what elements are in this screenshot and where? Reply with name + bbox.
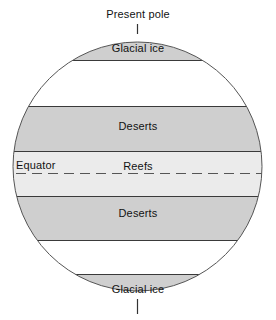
present-pole-label: Present pole — [0, 8, 276, 21]
deserts-south-label: Deserts — [0, 207, 276, 220]
deserts-north-label: Deserts — [0, 120, 276, 133]
glacial-ice-north-label: Glacial ice — [0, 42, 276, 55]
climate-belt-diagram: Present pole Glacial ice Deserts Reefs E… — [0, 0, 276, 320]
glacial-ice-south-label: Glacial ice — [0, 283, 276, 296]
band-temperate-north — [0, 60, 276, 106]
equator-label: Equator — [16, 159, 56, 172]
